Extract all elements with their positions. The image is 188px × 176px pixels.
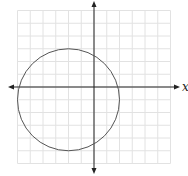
x-axis-left-arrow-icon (8, 85, 14, 90)
y-axis-up-arrow-icon (92, 1, 97, 7)
x-axis-label: x (182, 80, 188, 94)
y-axis-down-arrow-icon (92, 168, 97, 174)
axes: x (8, 1, 188, 174)
x-axis-right-arrow-icon (174, 85, 180, 90)
coordinate-plane: x (0, 0, 188, 176)
